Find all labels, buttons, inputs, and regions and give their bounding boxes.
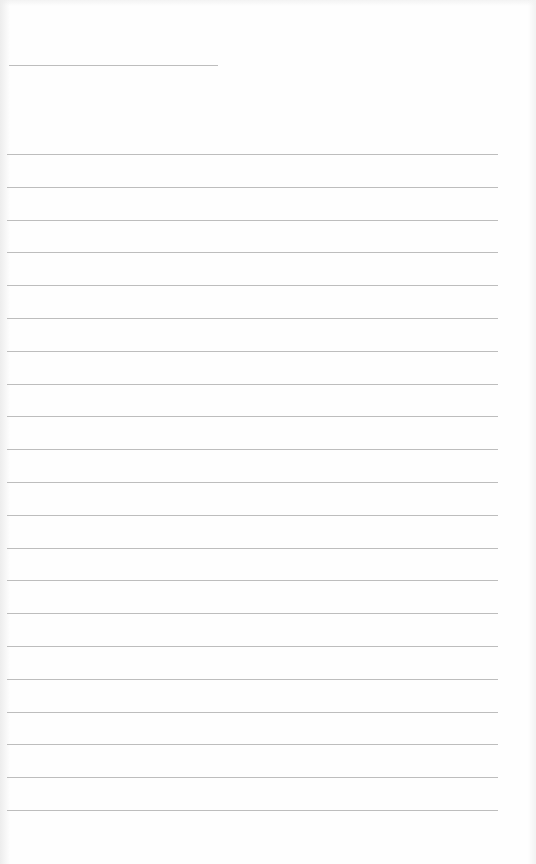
ruled-line bbox=[7, 810, 498, 811]
scan-top-edge bbox=[0, 0, 536, 6]
ruled-line bbox=[7, 580, 498, 581]
ruled-line bbox=[7, 613, 498, 614]
ruled-line bbox=[7, 548, 498, 549]
ruled-line bbox=[7, 285, 498, 286]
ruled-line bbox=[7, 515, 498, 516]
ruled-line bbox=[7, 744, 498, 745]
ruled-line bbox=[7, 154, 498, 155]
ruled-line bbox=[7, 384, 498, 385]
ruled-line bbox=[7, 416, 498, 417]
ruled-line bbox=[7, 646, 498, 647]
scan-right-edge-shadow bbox=[528, 0, 536, 864]
lined-paper-page bbox=[0, 0, 536, 864]
ruled-line bbox=[7, 252, 498, 253]
ruled-line bbox=[7, 712, 498, 713]
ruled-line bbox=[7, 679, 498, 680]
header-line bbox=[9, 65, 218, 66]
ruled-line bbox=[7, 777, 498, 778]
ruled-line bbox=[7, 220, 498, 221]
ruled-line bbox=[7, 351, 498, 352]
ruled-line bbox=[7, 318, 498, 319]
ruled-line bbox=[7, 449, 498, 450]
scan-left-edge-shadow bbox=[0, 0, 10, 864]
ruled-line bbox=[7, 187, 498, 188]
ruled-line bbox=[7, 482, 498, 483]
